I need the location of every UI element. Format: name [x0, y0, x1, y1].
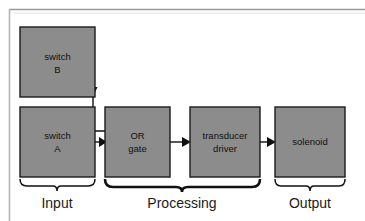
- connector-or-gate-to-transducer-driver: [170, 137, 191, 147]
- block-or-gate-label-line1: OR: [130, 130, 144, 141]
- block-switch-b-shape[interactable]: [20, 27, 95, 97]
- stage-label-processing: Processing: [147, 195, 216, 211]
- stage-braces: [20, 179, 345, 192]
- block-or-gate[interactable]: OR gate: [105, 107, 170, 177]
- block-transducer-driver-label-line1: transducer: [203, 130, 248, 141]
- block-solenoid[interactable]: solenoid: [275, 107, 345, 177]
- brace-input: [20, 179, 95, 191]
- block-transducer-driver[interactable]: transducer driver: [190, 107, 260, 177]
- block-switch-b-label-line2: B: [54, 64, 60, 75]
- stage-label-input: Input: [41, 195, 72, 211]
- block-transducer-driver-label-line2: driver: [213, 143, 237, 154]
- block-switch-b-label-line1: switch: [44, 51, 70, 62]
- diagram-canvas: switch B switch A OR gate transducer dri…: [0, 0, 365, 221]
- connector-transducer-driver-to-solenoid: [260, 137, 276, 147]
- block-or-gate-label-line2: gate: [128, 143, 147, 154]
- stage-label-output: Output: [289, 195, 331, 211]
- block-switch-a[interactable]: switch A: [20, 107, 95, 177]
- block-solenoid-label-line1: solenoid: [292, 136, 327, 147]
- block-diagram: switch B switch A OR gate transducer dri…: [0, 0, 365, 221]
- block-switch-b[interactable]: switch B: [20, 27, 95, 97]
- block-switch-a-label-line2: A: [54, 143, 61, 154]
- brace-processing: [105, 179, 260, 192]
- brace-output: [275, 179, 345, 191]
- stage-labels: Input Processing Output: [41, 195, 331, 211]
- block-switch-a-label-line1: switch: [44, 130, 70, 141]
